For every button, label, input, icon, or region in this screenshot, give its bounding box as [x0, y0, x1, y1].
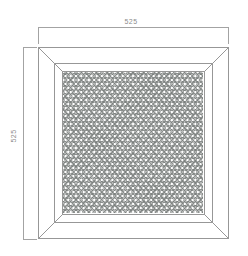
frame-inner-edge — [55, 64, 213, 223]
lattice-border — [63, 72, 205, 215]
frame-outer-edge — [39, 48, 229, 239]
mitre-joint-bottom-left — [39, 215, 63, 239]
mitre-joint-top-right — [205, 48, 229, 72]
width-dimension-line — [39, 28, 229, 45]
height-dimension-label: 525 — [10, 121, 18, 151]
width-dimension-label: 525 — [118, 18, 144, 26]
height-dimension-line — [24, 48, 38, 240]
mitre-joint-top-left — [39, 48, 63, 72]
technical-drawing: 525 525 — [0, 0, 248, 256]
frame-drawing — [0, 0, 248, 256]
mitre-joint-bottom-right — [205, 215, 229, 239]
